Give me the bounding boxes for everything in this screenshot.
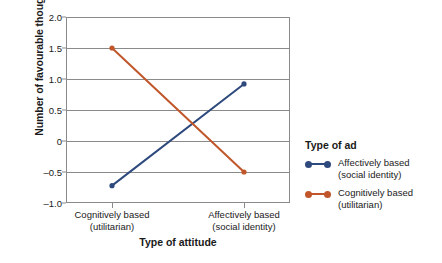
gridline <box>67 110 289 111</box>
legend-label-line: (utilitarian) <box>338 199 413 211</box>
x-tick-label-line: (utilitarian) <box>52 221 172 233</box>
x-tick-label: Cognitively based(utilitarian) <box>52 209 172 232</box>
y-tick-label: 0.5 <box>28 105 62 116</box>
y-tick-mark <box>62 172 66 173</box>
y-tick-label: 0 <box>28 136 62 147</box>
x-tick-label: Affectively based(social identity) <box>184 209 304 232</box>
legend-label-line: Affectively based <box>338 157 410 169</box>
y-tick-label: –1.0 <box>28 198 62 209</box>
x-tick-mark <box>244 203 245 208</box>
y-tick-mark <box>62 79 66 80</box>
legend-label: Cognitively based(utilitarian) <box>338 187 413 210</box>
x-tick-mark <box>112 203 113 208</box>
x-axis-title: Type of attitude <box>66 236 290 248</box>
y-tick-label: –0.5 <box>28 167 62 178</box>
legend-title: Type of ad <box>305 139 439 151</box>
line-chart-figure: Number of favourable thoughts 2.01.51.00… <box>0 0 442 263</box>
y-tick-label: 1.5 <box>28 43 62 54</box>
legend-marker-icon <box>305 188 331 200</box>
legend: Type of ad Affectively based(social iden… <box>305 139 439 217</box>
legend-marker-icon <box>305 158 331 170</box>
gridline <box>67 48 289 49</box>
y-tick-mark <box>62 141 66 142</box>
y-tick-label: 1.0 <box>28 74 62 85</box>
y-tick-mark <box>62 110 66 111</box>
x-tick-label-line: Cognitively based <box>52 209 172 221</box>
legend-entry[interactable]: Affectively based(social identity) <box>305 157 439 180</box>
legend-entries: Affectively based(social identity)Cognit… <box>305 157 439 210</box>
x-tick-label-line: (social identity) <box>184 221 304 233</box>
y-tick-mark <box>62 48 66 49</box>
y-tick-mark <box>62 17 66 18</box>
legend-label: Affectively based(social identity) <box>338 157 410 180</box>
legend-entry[interactable]: Cognitively based(utilitarian) <box>305 187 439 210</box>
x-tick-label-line: Affectively based <box>184 209 304 221</box>
legend-label-line: (social identity) <box>338 169 410 181</box>
plot-area <box>66 17 290 203</box>
gridline <box>67 79 289 80</box>
legend-label-line: Cognitively based <box>338 187 413 199</box>
y-tick-label: 2.0 <box>28 12 62 23</box>
y-tick-mark <box>62 203 66 204</box>
gridline <box>67 141 289 142</box>
gridline <box>67 172 289 173</box>
